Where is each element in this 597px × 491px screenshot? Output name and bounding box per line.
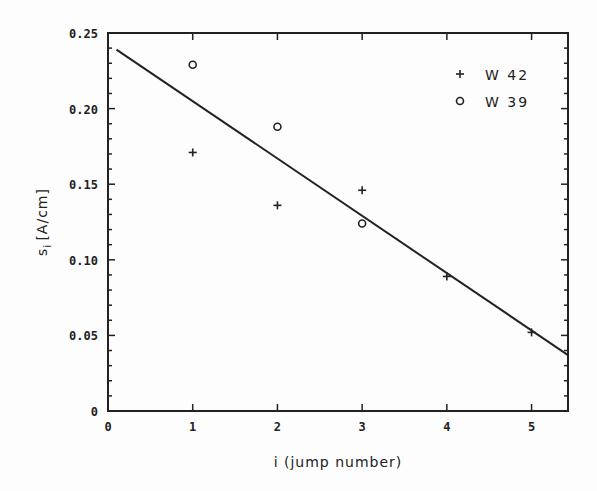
x-tick-label: 4 [443,420,450,434]
circle-marker-icon [457,98,464,105]
y-axis-subscript: i [41,244,54,248]
x-tick-label: 3 [359,420,366,434]
plus-marker-glyph [456,70,464,78]
scatter-chart: 012345 00.050.100.150.200.25 W 42 W 39 i… [0,0,597,491]
x-tick-label: 2 [274,420,281,434]
x-tick-label: 0 [104,420,111,434]
circle-data-point [359,220,366,227]
circle-marker-glyph [457,98,464,105]
data-points [189,61,536,336]
legend-item-w42: W 42 [456,67,529,83]
svg-text:si[A/cm]: si[A/cm] [34,188,54,256]
plus-data-point [358,186,366,194]
y-tick-label: 0.15 [69,178,98,192]
legend-item-w39: W 39 [457,94,530,110]
y-axis-title: si[A/cm] [34,188,54,256]
circle-data-point [189,61,196,68]
y-tick-labels: 00.050.100.150.200.25 [69,27,98,419]
x-tick-label: 5 [528,420,535,434]
x-axis-title: i (jump number) [274,454,403,470]
y-axis-symbol: s [34,248,50,256]
plus-data-point [273,201,281,209]
y-tick-label: 0.25 [69,27,98,41]
x-tick-labels: 012345 [104,420,535,434]
plus-marker-icon [456,70,464,78]
x-tick-label: 1 [189,420,196,434]
y-tick-label: 0.20 [69,103,98,117]
plus-data-point [189,148,197,156]
legend-label-w42: W 42 [485,67,529,83]
y-tick-label: 0 [91,405,98,419]
circle-data-point [274,123,281,130]
legend-label-w39: W 39 [485,94,529,110]
y-tick-label: 0.10 [69,254,98,268]
y-axis-units: [A/cm] [34,188,50,241]
plus-data-point [443,272,451,280]
y-tick-label: 0.05 [69,329,98,343]
legend: W 42 W 39 [456,67,529,110]
